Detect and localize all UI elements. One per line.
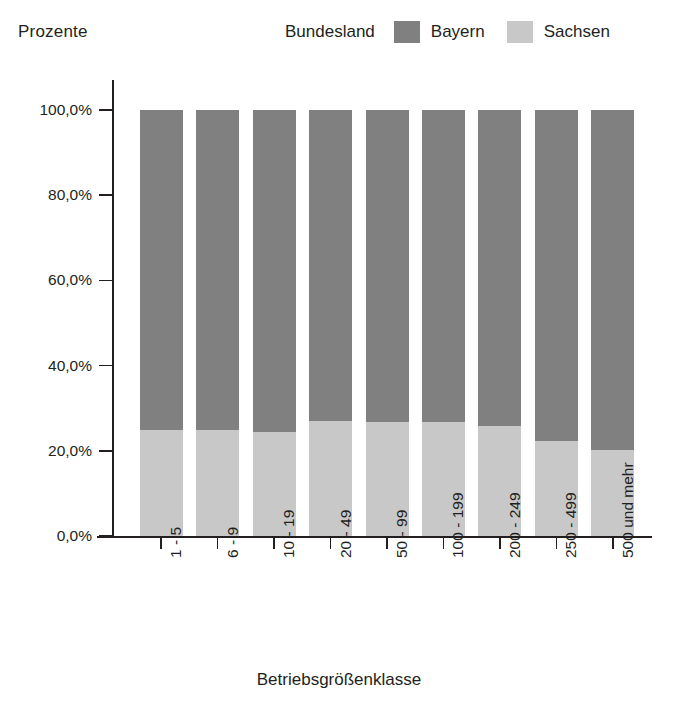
y-axis-tick-labels: 100,0%80,0%60,0%40,0%20,0%0,0% [0,0,92,710]
x-axis-tick [612,537,614,549]
y-axis-tick [99,535,112,537]
x-axis-tick [217,537,219,549]
legend-swatch-sachsen [507,21,533,43]
y-axis-tick [99,194,112,196]
x-axis-tick [160,537,162,549]
bar-stack[interactable] [196,110,239,536]
y-axis-tick [99,365,112,367]
bar-segment-bayern[interactable] [422,110,465,422]
x-axis-category-label: 200 - 249 [506,493,524,559]
bar-stack[interactable] [309,110,352,536]
y-axis-tick-label: 80,0% [48,186,92,204]
bar-segment-bayern[interactable] [478,110,521,426]
bar-segment-bayern[interactable] [535,110,578,441]
y-axis-tick [99,450,112,452]
y-axis-tick-label: 40,0% [48,357,92,375]
x-axis-tick [556,537,558,549]
bar-stack[interactable] [478,110,521,536]
y-axis-tick [99,109,112,111]
x-axis-category-label: 10 - 19 [280,510,298,558]
x-axis-category-label: 20 - 49 [337,510,355,558]
y-axis-tick [99,280,112,282]
x-axis-title: Betriebsgrößenklasse [0,670,678,690]
y-axis-tick-label: 100,0% [39,101,92,119]
legend-label-bayern: Bayern [431,22,485,42]
y-axis-tick-label: 20,0% [48,442,92,460]
x-axis-tick [273,537,275,549]
legend-label-sachsen: Sachsen [544,22,610,42]
x-axis-tick [443,537,445,549]
legend-entry-sachsen[interactable]: Sachsen [507,21,610,43]
x-axis-tick [386,537,388,549]
bar-segment-bayern[interactable] [140,110,183,430]
bar-segment-bayern[interactable] [253,110,296,432]
x-axis-category-label: 6 - 9 [224,527,242,558]
bar-segment-bayern[interactable] [196,110,239,430]
bar-segment-sachsen[interactable] [196,430,239,536]
bar-segment-bayern[interactable] [591,110,634,450]
x-axis-category-label: 100 - 199 [449,493,467,559]
legend-entry-bayern[interactable]: Bayern [394,21,485,43]
bar-segment-bayern[interactable] [309,110,352,421]
bar-stack[interactable] [422,110,465,536]
y-axis-tick-label: 0,0% [57,527,92,545]
y-axis-tick-label: 60,0% [48,271,92,289]
bar-stack[interactable] [253,110,296,536]
bar-stack[interactable] [366,110,409,536]
x-axis-category-label: 500 und mehr [619,462,637,558]
x-axis-category-label: 1 - 5 [167,527,185,558]
legend: Bundesland Bayern Sachsen [285,21,610,43]
x-axis-category-label: 50 - 99 [393,510,411,558]
bar-segment-bayern[interactable] [366,110,409,422]
x-axis-tick [330,537,332,549]
x-axis-category-label: 250 - 499 [562,493,580,559]
bar-stack[interactable] [140,110,183,536]
bar-stack[interactable] [535,110,578,536]
legend-title: Bundesland [285,22,375,42]
legend-swatch-bayern [394,21,420,43]
bar-segment-sachsen[interactable] [140,430,183,537]
plot-area [112,110,652,536]
chart-container: Prozente Bundesland Bayern Sachsen 100,0… [0,0,678,710]
x-axis-tick [499,537,501,549]
